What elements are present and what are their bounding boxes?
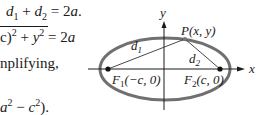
x-axis-arrow-icon: [237, 67, 245, 72]
axis-x-label: x: [248, 61, 255, 76]
d1-segment: [108, 39, 185, 69]
focus2-label: F2(c, 0): [183, 72, 224, 89]
axis-y-label: y: [158, 5, 166, 20]
d2-label: d2: [189, 51, 201, 68]
y-axis-arrow-icon: [162, 21, 167, 28]
focus-f1: [105, 66, 110, 71]
focus-f2: [217, 66, 222, 71]
point-p-label: P(x, y): [180, 23, 216, 38]
ellipse-diagram: y x P(x, y) d1 d2 F1(−c, 0) F2(c, 0): [0, 0, 256, 115]
focus1-label: F1(−c, 0): [111, 72, 161, 89]
